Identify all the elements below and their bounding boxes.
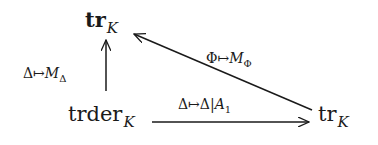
node-top-base: tr <box>85 7 106 32</box>
node-br-base: tr <box>318 102 336 126</box>
label-vertical-arrow: Δ↦MΔ <box>23 66 66 80</box>
label-v-var: M <box>45 65 59 81</box>
label-d-pre: Φ↦ <box>206 50 229 66</box>
node-bottom-right-trK: trK <box>318 104 349 125</box>
node-bottom-left-trderK: trderK <box>68 104 135 125</box>
label-d-var: M <box>229 50 243 66</box>
label-v-pre: Δ↦ <box>23 65 45 81</box>
label-diagonal-arrow: Φ↦MΦ <box>206 51 252 65</box>
label-v-sub: Δ <box>59 73 66 84</box>
node-br-sub: K <box>337 113 348 131</box>
node-bl-sub: K <box>123 113 134 131</box>
label-h-pre: Δ↦Δ| <box>178 96 215 112</box>
label-horizontal-arrow: Δ↦Δ|A1 <box>178 97 231 111</box>
node-top-trK: trK <box>85 9 118 30</box>
label-h-sub: 1 <box>225 104 231 115</box>
commutative-diagram: trK trderK trK Δ↦MΔ Δ↦Δ|A1 Φ↦MΦ <box>0 0 378 145</box>
node-bl-base: trder <box>68 102 122 126</box>
label-d-sub: Φ <box>244 58 252 69</box>
label-h-var: A <box>215 96 225 112</box>
node-top-sub: K <box>107 19 118 37</box>
